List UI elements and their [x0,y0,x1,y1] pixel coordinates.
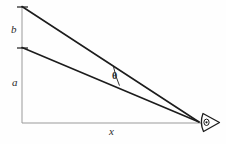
sight-line-upper [22,7,199,123]
figure-root: b a x θ [0,0,226,144]
label-height-b: b [11,24,17,35]
sight-line-lower [22,48,199,123]
label-angle-theta: θ [112,71,117,81]
eye-icon [201,114,219,132]
label-distance-x: x [109,126,114,137]
label-height-a: a [12,77,18,88]
